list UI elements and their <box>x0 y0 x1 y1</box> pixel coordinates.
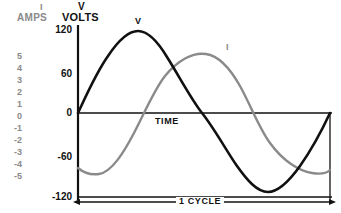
amps-tick-neg4: -4 <box>4 160 22 169</box>
amps-tick-neg5: -5 <box>4 172 22 181</box>
volts-tick-0: 0 <box>26 108 72 118</box>
voltage-waveform-curve <box>78 31 330 192</box>
voltage-curve-tag: V <box>135 17 141 26</box>
amps-tick-5: 5 <box>4 52 22 61</box>
amps-tick-neg2: -2 <box>4 136 22 145</box>
time-axis-label: TIME <box>155 117 179 126</box>
amps-tick-neg3: -3 <box>4 148 22 157</box>
current-axis-symbol: I <box>40 3 43 12</box>
amps-tick-0: 0 <box>4 112 22 121</box>
volts-tick-120: 120 <box>26 25 72 35</box>
amps-tick-2: 2 <box>4 88 22 97</box>
cycle-span-label: 1 CYCLE <box>176 197 224 206</box>
current-curve-tag: I <box>226 43 229 52</box>
current-axis-unit: AMPS <box>17 13 47 23</box>
amps-tick-1: 1 <box>4 100 22 109</box>
amps-tick-neg1: -1 <box>4 124 22 133</box>
volts-tick-neg60: -60 <box>26 152 72 162</box>
volts-tick-60: 60 <box>26 69 72 79</box>
voltage-axis-unit: VOLTS <box>62 12 99 23</box>
amps-tick-4: 4 <box>4 64 22 73</box>
volts-tick-neg120: -120 <box>26 192 72 202</box>
amps-tick-3: 3 <box>4 76 22 85</box>
